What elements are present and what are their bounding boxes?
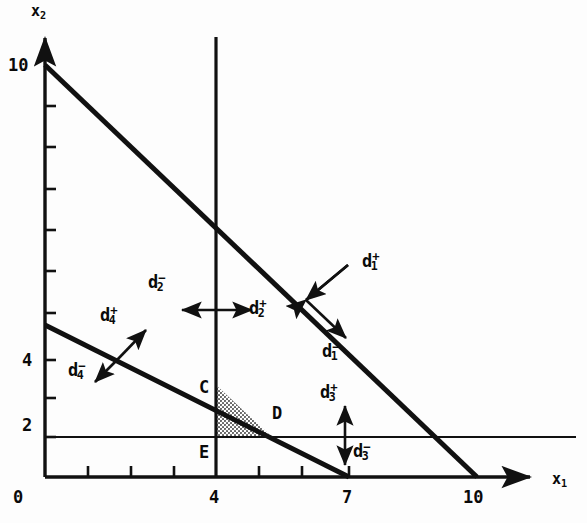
x-axis-title: x1 (552, 470, 567, 489)
vertex-label-d: D (272, 403, 282, 423)
constraint-line-goal4 (45, 325, 349, 477)
deviation-label-d2-plus: d+2 (249, 297, 265, 320)
deviation-label-d3-plus: d+3 (320, 381, 336, 404)
graph-svg (0, 0, 587, 523)
feasible-region-shading (216, 385, 272, 437)
x-tick-label-0: 0 (13, 487, 23, 507)
vertex-label-c: C (199, 377, 209, 397)
y-tick-label-3: 4 (22, 350, 32, 370)
figure-canvas: x2 x1 10 4 2 0 4 7 10 C D E d+1 d−1 d−2 … (0, 0, 587, 523)
deviation-label-d1-minus: d−1 (322, 340, 338, 363)
y-tick-label-10: 10 (8, 55, 28, 75)
vertex-label-e: E (199, 442, 209, 462)
constraint-line-goal1 (45, 65, 477, 477)
x-tick-label-10: 10 (463, 487, 483, 507)
y-axis-title: x2 (31, 2, 46, 21)
x-tick-label-4: 4 (209, 487, 219, 507)
y-tick-label-1: 2 (22, 415, 32, 435)
deviation-label-d2-minus: d−2 (148, 271, 164, 294)
deviation-arrow-d1 (306, 265, 348, 338)
deviation-label-d3-minus: d−3 (353, 440, 369, 463)
deviation-label-d4-plus: d+4 (100, 304, 116, 327)
x-tick-label-7: 7 (342, 487, 352, 507)
deviation-label-d1-plus: d+1 (362, 250, 378, 273)
deviation-label-d4-minus: d−4 (68, 359, 84, 382)
